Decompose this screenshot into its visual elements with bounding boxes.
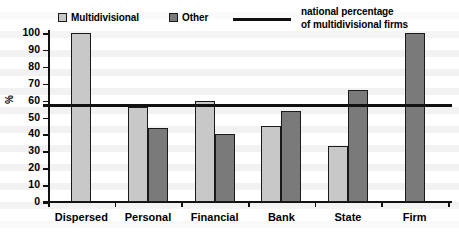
y-axis-tick: 20 [43, 168, 48, 170]
legend-swatch-other [169, 13, 178, 22]
legend-label-other: Other [182, 12, 208, 23]
y-axis-tick: 40 [43, 134, 48, 136]
y-axis-tick: 50 [43, 118, 48, 120]
x-axis-category-label-financial: Financial [181, 211, 248, 224]
x-axis-tick [248, 202, 250, 207]
bar-bank-other [281, 111, 301, 202]
bar-chart: Multidivisional Other national percentag… [0, 0, 459, 245]
chart-legend: Multidivisional Other national percentag… [58, 8, 454, 36]
y-axis-tick: 30 [43, 151, 48, 153]
legend-reference-line-sample [233, 17, 291, 21]
x-axis-tick [115, 202, 117, 207]
y-axis-tick-label: 30 [18, 144, 40, 156]
y-axis-tick-label: 0 [18, 195, 40, 207]
bar-personal-multidivisional [128, 107, 148, 202]
legend-line-glyph [233, 18, 291, 21]
bar-bank-multidivisional [261, 126, 281, 202]
legend-label-multidivisional: Multidivisional [71, 12, 139, 23]
y-axis-tick-label: 50 [18, 111, 40, 123]
bar-state-other [348, 90, 368, 202]
y-axis-tick: 70 [43, 84, 48, 86]
x-axis-category-label-bank: Bank [248, 211, 315, 224]
bar-financial-multidivisional [195, 101, 215, 202]
x-axis-category-label-personal: Personal [115, 211, 182, 224]
y-axis-tick: 60 [43, 101, 48, 103]
bar-personal-other [148, 128, 168, 202]
bar-firm-other [405, 33, 425, 202]
x-axis-category-label-dispersed: Dispersed [48, 211, 115, 224]
y-axis-tick-label: 40 [18, 127, 40, 139]
x-axis-tick [448, 202, 450, 207]
x-axis-category-label-firm: Firm [381, 211, 448, 224]
plot-area: 1009080706050403020100DispersedPersonalF… [48, 33, 448, 202]
y-axis-tick-label: 90 [18, 43, 40, 55]
x-axis-tick [315, 202, 317, 207]
y-axis-tick: 80 [43, 67, 48, 69]
legend-reference-line-note: national percentage of multidivisional f… [301, 6, 408, 31]
y-axis-tick-label: 60 [18, 94, 40, 106]
legend-entry-multidivisional: Multidivisional [58, 12, 139, 23]
y-axis-line [48, 30, 50, 205]
y-axis-tick-label: 10 [18, 178, 40, 190]
y-axis-tick-label: 20 [18, 161, 40, 173]
bar-state-multidivisional [328, 146, 348, 202]
y-axis-tick-label: 80 [18, 60, 40, 72]
bar-financial-other [215, 134, 235, 202]
y-axis-tick-label: 70 [18, 77, 40, 89]
legend-note-line-1: national percentage [301, 6, 408, 19]
y-axis-tick: 90 [43, 50, 48, 52]
y-axis-title: % [4, 95, 15, 104]
y-axis-tick: 100 [43, 33, 48, 35]
y-axis-tick: 10 [43, 185, 48, 187]
national-percentage-reference-line [43, 104, 452, 107]
y-axis-tick-label: 100 [18, 26, 40, 38]
legend-entry-other: Other [169, 12, 208, 23]
legend-swatch-multidivisional [58, 13, 67, 22]
legend-note-line-2: of multidivisional firms [301, 19, 408, 32]
x-axis-tick [381, 202, 383, 207]
bar-dispersed-multidivisional [71, 33, 91, 202]
x-axis-tick [181, 202, 183, 207]
x-axis-category-label-state: State [315, 211, 382, 224]
x-axis-tick [48, 202, 50, 207]
